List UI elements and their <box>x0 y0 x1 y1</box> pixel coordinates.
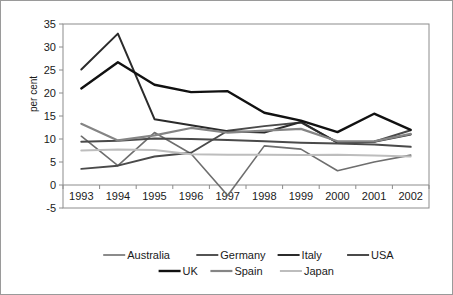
legend-item-germany[interactable]: Germany <box>196 249 266 261</box>
legend-label-uk: UK <box>183 265 199 277</box>
x-tick-label: 2000 <box>325 190 349 202</box>
legend-label-australia: Australia <box>127 249 171 261</box>
legend-item-italy[interactable]: Italy <box>278 249 323 261</box>
y-tick-label: -5 <box>46 202 56 214</box>
legend-item-japan[interactable]: Japan <box>280 265 334 277</box>
series-line-spain <box>81 124 410 141</box>
y-tick-label: 10 <box>44 133 56 145</box>
y-tick-label: 30 <box>44 41 56 53</box>
legend-item-spain[interactable]: Spain <box>210 265 262 277</box>
series-line-germany <box>81 122 410 168</box>
x-tick-label: 1999 <box>289 190 313 202</box>
y-tick-label: 0 <box>50 179 56 191</box>
legend-label-japan: Japan <box>304 265 334 277</box>
x-tick-label: 1993 <box>69 190 93 202</box>
legend-item-usa[interactable]: USA <box>347 249 394 261</box>
series-line-uk <box>81 62 410 132</box>
legend-label-usa: USA <box>371 249 394 261</box>
y-tick-label: 20 <box>44 87 56 99</box>
legend-item-uk[interactable]: UK <box>159 265 199 277</box>
y-tick-label: 15 <box>44 110 56 122</box>
legend-label-italy: Italy <box>302 249 323 261</box>
x-tick-label: 1998 <box>252 190 276 202</box>
legend-label-germany: Germany <box>220 249 266 261</box>
legend-item-australia[interactable]: Australia <box>103 249 171 261</box>
y-tick-label: 25 <box>44 64 56 76</box>
x-tick-label: 1994 <box>106 190 130 202</box>
x-tick-label: 2002 <box>398 190 422 202</box>
y-axis-title: per cent <box>28 76 39 112</box>
x-tick-label: 1995 <box>142 190 166 202</box>
plot-area-frame <box>63 24 429 208</box>
y-tick-label: 35 <box>44 18 56 30</box>
y-tick-label: 5 <box>50 156 56 168</box>
line-chart: -505101520253035199319941995199619971998… <box>1 1 453 295</box>
series-line-italy <box>81 34 410 143</box>
legend-label-spain: Spain <box>234 265 262 277</box>
chart-figure: -505101520253035199319941995199619971998… <box>0 0 453 295</box>
x-tick-label: 1996 <box>179 190 203 202</box>
x-tick-label: 2001 <box>362 190 386 202</box>
